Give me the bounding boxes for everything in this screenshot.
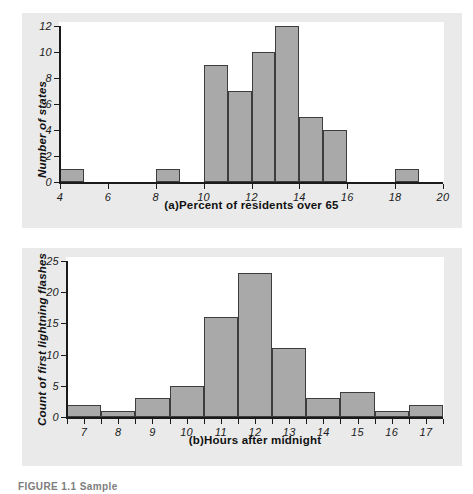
x-axis-title-a: (a)Percent of residents over 65 bbox=[60, 199, 443, 211]
histogram-bar bbox=[67, 405, 101, 417]
figure-container: 024681012468101214161820 Number of state… bbox=[0, 0, 473, 494]
x-axis-minor-tick bbox=[409, 419, 410, 424]
x-axis-tick bbox=[118, 419, 119, 424]
y-axis-tick bbox=[61, 386, 66, 387]
figure-caption: FIGURE 1.1 Sample bbox=[18, 481, 118, 494]
histogram-bar bbox=[340, 392, 374, 417]
y-axis-tick bbox=[54, 26, 59, 27]
histogram-bar bbox=[252, 52, 276, 182]
chart-panel-a: 024681012468101214161820 Number of state… bbox=[22, 13, 462, 228]
x-axis-minor-tick bbox=[443, 419, 444, 424]
x-axis-tick bbox=[60, 184, 61, 189]
y-axis-tick-label: 12 bbox=[28, 20, 52, 32]
y-axis-tick bbox=[54, 130, 59, 131]
histogram-bar bbox=[228, 91, 252, 182]
y-axis-tick bbox=[61, 355, 66, 356]
y-axis-tick bbox=[54, 104, 59, 105]
x-axis-minor-tick bbox=[135, 419, 136, 424]
x-axis-minor-tick bbox=[272, 419, 273, 424]
x-axis-tick bbox=[187, 419, 188, 424]
x-axis-tick bbox=[108, 184, 109, 189]
x-axis-tick bbox=[358, 419, 359, 424]
x-axis-tick bbox=[252, 184, 253, 189]
histogram-bar bbox=[272, 348, 306, 417]
y-axis-tick bbox=[61, 323, 66, 324]
histogram-bar bbox=[409, 405, 443, 417]
x-axis-tick bbox=[426, 419, 427, 424]
x-axis-tick bbox=[204, 184, 205, 189]
chart-panel-b: 05101520257891011121314151617 Count of f… bbox=[22, 248, 462, 466]
x-axis-minor-tick bbox=[306, 419, 307, 424]
y-axis-title-b: Count of first lightning flashes bbox=[36, 253, 48, 426]
x-axis-tick bbox=[221, 419, 222, 424]
histogram-bar bbox=[275, 26, 299, 182]
x-axis-tick bbox=[84, 419, 85, 424]
histogram-bar bbox=[323, 130, 347, 182]
y-axis-line bbox=[66, 261, 68, 418]
y-axis-tick bbox=[61, 261, 66, 262]
y-axis-tick bbox=[54, 182, 59, 183]
x-axis-tick bbox=[156, 184, 157, 189]
x-axis-minor-tick bbox=[340, 419, 341, 424]
histogram-bar bbox=[395, 169, 419, 182]
x-axis-minor-tick bbox=[204, 419, 205, 424]
x-axis-tick bbox=[255, 419, 256, 424]
y-axis-title-a: Number of states bbox=[36, 81, 48, 178]
x-axis-tick bbox=[152, 419, 153, 424]
histogram-bar bbox=[60, 169, 84, 182]
x-axis-minor-tick bbox=[67, 419, 68, 424]
y-axis-line bbox=[59, 26, 61, 183]
y-axis-tick-label: 10 bbox=[28, 46, 52, 58]
histogram-bar bbox=[299, 117, 323, 182]
x-axis-tick bbox=[289, 419, 290, 424]
y-axis-tick bbox=[61, 417, 66, 418]
y-axis-tick bbox=[61, 292, 66, 293]
histogram-bar bbox=[170, 386, 204, 417]
x-axis-tick bbox=[299, 184, 300, 189]
x-axis-tick bbox=[443, 184, 444, 189]
x-axis-minor-tick bbox=[238, 419, 239, 424]
x-axis-tick bbox=[395, 184, 396, 189]
y-axis-tick bbox=[54, 52, 59, 53]
histogram-bar bbox=[135, 398, 169, 417]
x-axis-minor-tick bbox=[170, 419, 171, 424]
x-axis-tick bbox=[347, 184, 348, 189]
x-axis-minor-tick bbox=[375, 419, 376, 424]
x-axis-title-b: (b)Hours after midnight bbox=[67, 434, 443, 446]
histogram-bar bbox=[204, 317, 238, 417]
histogram-bar bbox=[156, 169, 180, 182]
y-axis-tick bbox=[54, 156, 59, 157]
histogram-bar bbox=[238, 273, 272, 417]
x-axis-tick bbox=[392, 419, 393, 424]
histogram-bar bbox=[306, 398, 340, 417]
y-axis-tick bbox=[54, 78, 59, 79]
x-axis-tick bbox=[323, 419, 324, 424]
x-axis-minor-tick bbox=[101, 419, 102, 424]
histogram-bar bbox=[204, 65, 228, 182]
